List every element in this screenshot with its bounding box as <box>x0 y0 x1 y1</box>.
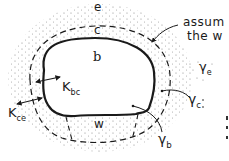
k-bc-subscript: bc <box>71 88 81 97</box>
k-bc-symbol: K <box>62 79 71 94</box>
diagram-canvas: e c b w Kbc Kce γe γc γb assum the w <box>0 0 229 161</box>
k-bc-label: Kbc <box>62 80 80 97</box>
region-w-label: w <box>94 118 104 130</box>
gamma-b-subscript: b <box>166 140 172 150</box>
region-b-label: b <box>93 50 101 63</box>
region-e-label: e <box>94 1 101 13</box>
gamma-e-subscript: e <box>207 68 212 77</box>
gamma-c-label: γc <box>188 92 201 109</box>
gamma-e-symbol: γ <box>199 59 207 74</box>
gamma-e-label: γe <box>199 60 212 77</box>
region-c-label: c <box>94 24 101 36</box>
annotation-line-1: assum <box>183 16 225 28</box>
gamma-c-subscript: c <box>196 100 201 110</box>
k-ce-label: Kce <box>8 106 26 123</box>
k-ce-subscript: ce <box>17 114 26 123</box>
annotation-line-2: the w <box>187 30 223 42</box>
k-ce-symbol: K <box>8 105 17 120</box>
gamma-b-label: γb <box>158 132 172 149</box>
